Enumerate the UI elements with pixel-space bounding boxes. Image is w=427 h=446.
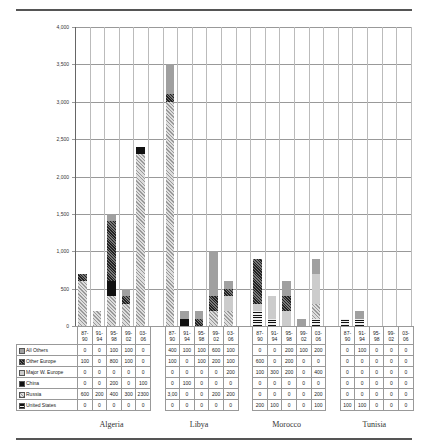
y-tick-label: 1,000 [29, 248, 69, 254]
table-cell: 0 [384, 345, 399, 356]
table-cell: 600 [209, 345, 224, 356]
gridline-v [250, 27, 251, 326]
table-cell: 600 [78, 389, 93, 400]
gridline-h [72, 102, 412, 103]
table-row: Russia60020040030023003,0000200200000020… [17, 389, 414, 400]
bar-segment-other-europe [195, 319, 204, 326]
period-header: 95-98 [369, 327, 384, 345]
table-cell: 0 [267, 389, 282, 400]
table-cell: 0 [311, 378, 326, 389]
bar-segment-russia [209, 311, 218, 326]
bar-segment-all-others [297, 319, 306, 326]
bar-segment-all-others [209, 251, 218, 296]
period-header: 91-94 [355, 327, 370, 345]
legend-swatch-icon [19, 403, 25, 409]
table-cell: 100 [340, 400, 355, 411]
gridline-v [294, 27, 295, 326]
table-cell: 0 [296, 367, 311, 378]
table-cell: 0 [340, 378, 355, 389]
table-cell: 0 [136, 367, 151, 378]
table-cell: 0 [180, 356, 195, 367]
bar-segment-other-europe [253, 259, 262, 304]
table-cell: 0 [223, 378, 238, 389]
bar-algeria-91-94 [93, 311, 102, 326]
table-cell: 0 [355, 356, 370, 367]
period-header: 87-90 [165, 327, 180, 345]
table-cell: 100 [78, 356, 93, 367]
table-cell: 0 [296, 356, 311, 367]
table-cell: 0 [369, 389, 384, 400]
table-cell: 100 [194, 356, 209, 367]
table-row: Major W. Europe0000000002001003002000400… [17, 367, 414, 378]
legend-swatch-icon [19, 348, 25, 354]
period-header: 95-98 [194, 327, 209, 345]
table-cell: 0 [92, 356, 107, 367]
gridline-v [265, 27, 266, 326]
period-header: 91-94 [92, 327, 107, 345]
bar-segment-other-europe [282, 296, 291, 311]
table-cell: 0 [180, 400, 195, 411]
bar-morocco-87-90 [253, 259, 262, 326]
table-cell: 400 [165, 345, 180, 356]
table-cell: 0 [369, 400, 384, 411]
table-cell: 0 [78, 400, 93, 411]
legend-swatch-icon [19, 359, 25, 365]
table-cell: 0 [399, 378, 414, 389]
bar-libya-03-06 [224, 281, 233, 326]
bar-segment-all-others [180, 311, 189, 318]
legend-swatch-icon [19, 370, 25, 376]
table-cell: 0 [78, 367, 93, 378]
table-cell: 0 [121, 400, 136, 411]
legend-entry: Major W. Europe [17, 367, 78, 378]
bar-morocco-99-02 [297, 319, 306, 326]
table-cell: 200 [253, 400, 268, 411]
table-cell: 0 [223, 400, 238, 411]
table-cell: 0 [194, 400, 209, 411]
table-cell: 0 [121, 378, 136, 389]
table-cell: 0 [194, 367, 209, 378]
gridline-v [90, 27, 91, 326]
gridline-v [382, 27, 383, 326]
table-cell: 100 [253, 367, 268, 378]
table-cell: 200 [209, 389, 224, 400]
table-cell: 400 [311, 367, 326, 378]
bar-segment-major-w-europe [312, 274, 321, 304]
bar-segment-china [180, 319, 189, 326]
table-cell: 0 [209, 378, 224, 389]
table-cell: 100 [311, 400, 326, 411]
bar-segment-united-states [312, 319, 321, 326]
table-cell: 0 [311, 356, 326, 367]
bar-segment-other-europe [107, 221, 116, 281]
table-cell: 0 [384, 400, 399, 411]
y-tick-label: 3,000 [29, 99, 69, 105]
period-header: 95-98 [282, 327, 297, 345]
table-cell: 0 [296, 400, 311, 411]
gridline-v [338, 27, 339, 326]
bar-segment-russia [78, 281, 87, 326]
bar-segment-all-others [107, 214, 116, 221]
table-cell: 100 [136, 378, 151, 389]
table-cell: 800 [107, 356, 122, 367]
region-label-libya: Libya [181, 420, 217, 429]
table-cell: 0 [355, 378, 370, 389]
y-tick-label: 2,000 [29, 174, 69, 180]
table-cell: 100 [355, 400, 370, 411]
gridline-h [72, 64, 412, 65]
table-cell: 0 [399, 356, 414, 367]
gridline-h [72, 139, 412, 140]
table-cell: 0 [340, 356, 355, 367]
table-cell: 0 [369, 378, 384, 389]
bar-segment-major-w-europe [253, 304, 262, 311]
bar-segment-all-others [282, 281, 291, 296]
table-row: China00200010001000000000000000 [17, 378, 414, 389]
bar-segment-other-europe [122, 296, 131, 303]
region-label-tunisia: Tunisia [356, 420, 392, 429]
bar-libya-95-98 [195, 311, 204, 326]
gridline-v [177, 27, 178, 326]
table-cell: 0 [209, 367, 224, 378]
data-table: 87-9091-9495-9899-0203-0687-9091-9495-98… [16, 326, 414, 411]
bar-segment-russia [93, 311, 102, 326]
table-cell: 0 [384, 356, 399, 367]
period-header: 87-90 [78, 327, 93, 345]
table-cell: 0 [267, 345, 282, 356]
